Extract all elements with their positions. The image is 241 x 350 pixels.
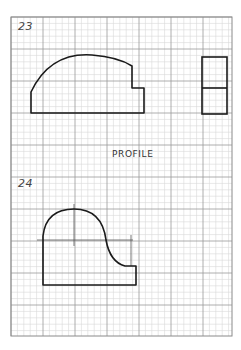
major-grid: [11, 17, 232, 336]
problem-number-24: 24: [18, 177, 33, 190]
grid-border: [11, 17, 232, 336]
profile-caption: PROFILE: [112, 149, 154, 159]
drawing-sheet: [0, 0, 241, 350]
problem-24-front-view: [43, 209, 136, 285]
problem-24-centerlines: [37, 204, 133, 266]
problem-23-side-view: [202, 57, 227, 114]
minor-grid: [11, 17, 232, 336]
problem-number-23: 23: [18, 20, 33, 33]
